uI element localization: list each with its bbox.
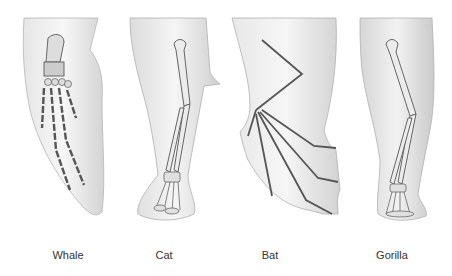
bat-wing-illustration xyxy=(228,0,343,232)
cat-leg-illustration xyxy=(128,0,228,232)
label-whale: Whale xyxy=(28,249,108,261)
label-cat: Cat xyxy=(124,249,204,261)
whale-flipper-illustration xyxy=(10,0,120,232)
label-bat: Bat xyxy=(230,249,310,261)
cat-leg-drawing xyxy=(128,0,228,232)
whale-flipper-drawing xyxy=(10,0,120,232)
label-gorilla: Gorilla xyxy=(352,249,432,261)
gorilla-arm-drawing xyxy=(350,0,450,232)
gorilla-arm-illustration xyxy=(350,0,450,232)
bat-wing-drawing xyxy=(228,0,343,232)
